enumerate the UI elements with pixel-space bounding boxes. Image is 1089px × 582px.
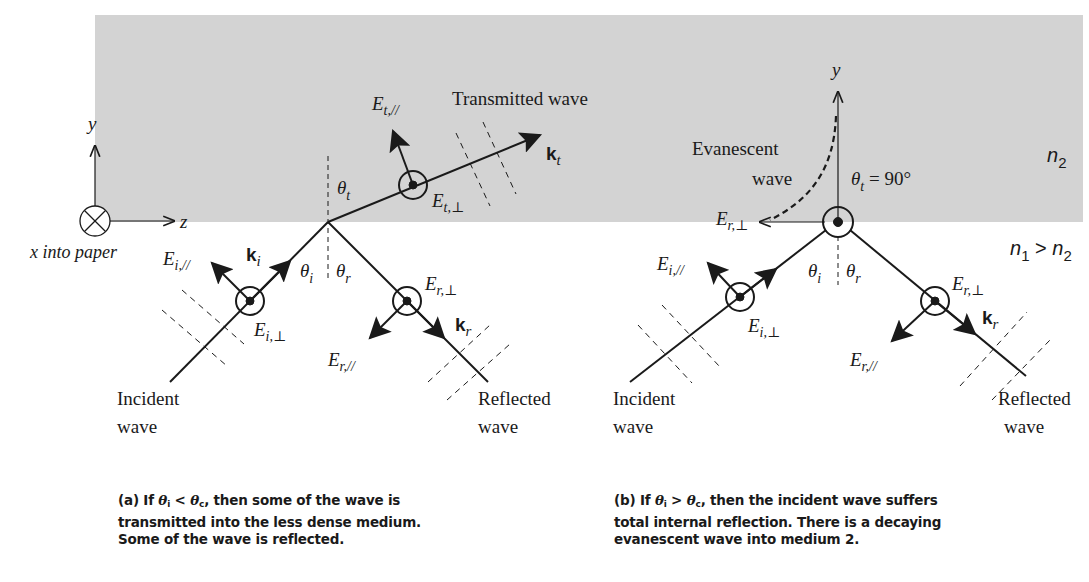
z-axis-label: z (179, 211, 188, 232)
medium-2-region (95, 15, 1083, 222)
y-axis-label-b: y (830, 59, 841, 80)
incident-wave-label-line1: Incident (117, 388, 180, 409)
caption-a: (a) If θi < θc, then some of the wave is… (118, 492, 538, 549)
reflected-wave-label-line1-b: Reflected (998, 388, 1071, 409)
caption-b-line1: (b) If θi > θc, then the incident wave s… (614, 492, 1084, 514)
e-r-parallel-label: Er,// (327, 349, 356, 374)
caption-a-line2: transmitted into the less dense medium. (118, 514, 538, 532)
incident-wave-label-line2: wave (117, 416, 157, 437)
e-i-perp-label-b: Ei,⊥ (747, 315, 780, 340)
transmitted-wave-label: Transmitted wave (452, 88, 588, 109)
theta-i-label: θi (300, 260, 313, 286)
theta-r-label: θr (336, 260, 351, 286)
k-i-label: ki (246, 244, 261, 269)
caption-b-line3: evanescent wave into medium 2. (614, 531, 1084, 549)
e-r-perp-label-b: Er,⊥ (951, 273, 984, 298)
n1-gt-n2-label: n1 > n2 (1010, 237, 1072, 264)
caption-a-line3: Some of the wave is reflected. (118, 531, 538, 549)
theta-i-label-b: θi (808, 260, 821, 286)
reflected-wave-label-line2: wave (478, 416, 518, 437)
e-r-perp-label: Er,⊥ (424, 273, 457, 298)
caption-b-line2: total internal reflection. There is a de… (614, 514, 1084, 532)
reflected-wave-label-line1: Reflected (478, 388, 551, 409)
e-i-parallel-label-b: Ei,// (656, 253, 685, 278)
caption-a-line1: (a) If θi < θc, then some of the wave is (118, 492, 538, 514)
k-r-label-b: kr (982, 307, 999, 332)
reflected-wave-label-line2-b: wave (1004, 416, 1044, 437)
theta-r-label-b: θr (846, 260, 861, 286)
evanescent-wave-label-line2: wave (752, 168, 792, 189)
caption-b: (b) If θi > θc, then the incident wave s… (614, 492, 1084, 549)
e-i-parallel-label: Ei,// (162, 248, 191, 273)
incident-wave-label-line1-b: Incident (613, 388, 676, 409)
e-i-perp-label: Ei,⊥ (253, 319, 286, 344)
incident-wave-label-line2-b: wave (613, 416, 653, 437)
y-axis-label: y (86, 113, 97, 134)
k-r-label: kr (455, 314, 472, 339)
x-into-paper-label: x into paper (29, 242, 118, 262)
evanescent-wave-label-line1: Evanescent (692, 138, 779, 159)
e-r-parallel-label-b: Er,// (849, 349, 878, 374)
